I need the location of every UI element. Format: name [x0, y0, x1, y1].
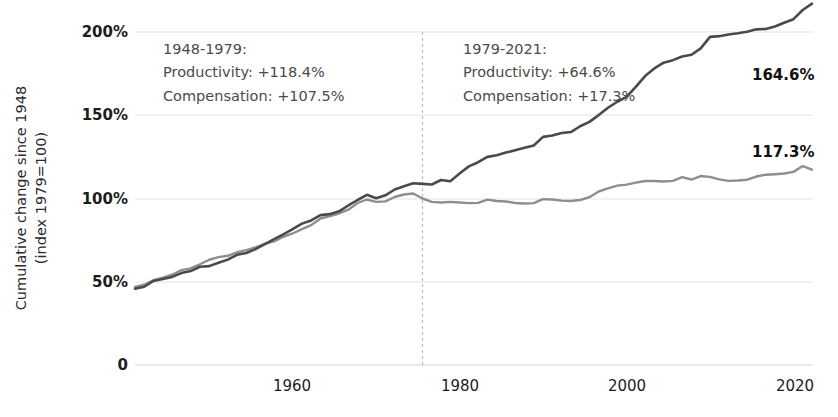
series-line-productivity — [135, 4, 812, 289]
gridlines — [135, 32, 812, 365]
plot-area — [0, 0, 838, 417]
series-line-compensation — [135, 166, 812, 287]
chart-container: Cumulative change since 1948 (index 1979… — [0, 0, 838, 417]
